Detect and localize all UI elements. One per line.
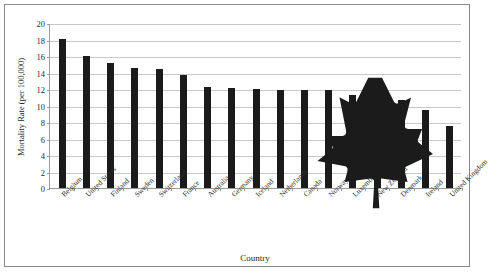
bar: [131, 68, 138, 188]
y-axis-tick-label: 10: [37, 102, 46, 112]
y-axis-tickmark: [47, 107, 50, 108]
bar: [253, 89, 260, 188]
y-axis-tickmark: [47, 74, 50, 75]
bar: [156, 69, 163, 188]
y-axis-tick-label: 20: [37, 19, 46, 29]
y-axis-tickmark: [47, 24, 50, 25]
gridline: [50, 24, 461, 25]
gridline: [50, 57, 461, 58]
maple-leaf-icon: [295, 69, 469, 243]
y-axis-tick-label: 4: [41, 151, 45, 161]
y-axis-tickmark: [47, 41, 50, 42]
y-axis-tickmark: [47, 173, 50, 174]
y-axis-tick-label: 12: [37, 85, 46, 95]
bar: [83, 56, 90, 188]
x-axis-title: Country: [49, 253, 461, 263]
chart-frame: Mortality Rate (per 100,000) 02468101214…: [4, 4, 470, 267]
y-axis-tickmark: [47, 90, 50, 91]
y-axis-tick-label: 6: [41, 135, 45, 145]
y-axis-tickmark: [47, 140, 50, 141]
y-axis-tick-label: 14: [37, 69, 46, 79]
bar: [277, 90, 284, 188]
bar: [228, 88, 235, 188]
y-axis-tick-label: 2: [41, 168, 45, 178]
y-axis-tickmark: [47, 156, 50, 157]
gridline: [50, 41, 461, 42]
y-axis-tickmark: [47, 189, 50, 190]
y-axis-tickmark: [47, 57, 50, 58]
bar: [204, 87, 211, 188]
y-axis-tick-label: 16: [37, 52, 46, 62]
y-axis-title: Mortality Rate (per 100,000): [13, 24, 29, 189]
bar: [59, 39, 66, 188]
y-axis-tick-label: 0: [41, 184, 45, 194]
y-axis-tickmark: [47, 123, 50, 124]
y-axis-tick-label: 8: [41, 118, 45, 128]
y-axis-tick-label: 18: [37, 36, 46, 46]
